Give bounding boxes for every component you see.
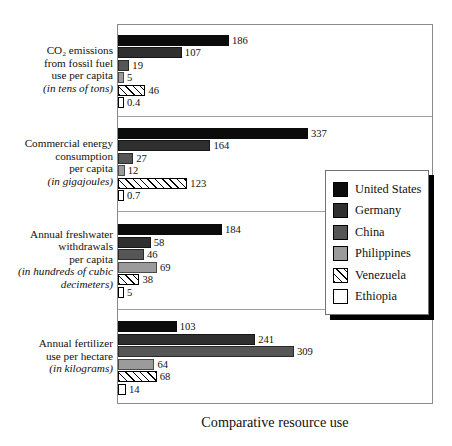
bar — [118, 72, 124, 83]
category-unit-line: decimeters) — [0, 278, 113, 291]
category-label-line: Commercial energy — [0, 137, 113, 150]
category-label-line: consumption — [0, 150, 113, 163]
bar — [118, 237, 151, 248]
bar — [118, 165, 125, 176]
category-label-line: per capita — [0, 253, 113, 266]
bar-value-label: 58 — [154, 238, 165, 249]
bar — [118, 97, 124, 108]
category-label-line: from fossil fuel — [0, 57, 113, 70]
bar — [118, 35, 229, 46]
category-label: Commercial energyconsumptionper capita(i… — [0, 137, 113, 187]
category-label-line: per capita — [0, 162, 113, 175]
legend-label: China — [355, 226, 385, 239]
category-label-line: Annual fertilizer — [0, 337, 113, 350]
bar — [118, 287, 124, 298]
category-label: Annual freshwaterwithdrawalsper capita(i… — [0, 228, 113, 291]
legend-item[interactable]: United States — [333, 179, 421, 199]
chart-root: CO₂ emissionsfrom fossil fueluse per cap… — [0, 0, 452, 446]
bar — [118, 153, 133, 164]
legend-item[interactable]: Ethiopia — [333, 287, 397, 307]
bar — [118, 85, 145, 96]
legend-label: Germany — [355, 204, 401, 217]
bar — [118, 190, 124, 201]
bar — [118, 60, 129, 71]
bar — [118, 359, 154, 370]
bar — [118, 274, 139, 285]
bar — [118, 140, 210, 151]
legend-swatch-icon — [333, 246, 348, 261]
bar — [118, 334, 255, 345]
legend-label: United States — [355, 183, 421, 196]
bar — [118, 262, 157, 273]
bar — [118, 384, 126, 395]
bar-value-label: 164 — [213, 141, 229, 152]
bar-value-label: 64 — [157, 360, 168, 371]
chart-title: Comparative resource use — [117, 414, 433, 430]
bar-value-label: 12 — [128, 166, 139, 177]
bar-value-label: 103 — [180, 322, 196, 333]
category-unit-line: (in hundreds of cubic — [0, 265, 113, 278]
legend-label: Philippines — [355, 247, 411, 260]
category-unit-line: (in tens of tons) — [0, 82, 113, 95]
legend-label: Venezuela — [355, 269, 406, 282]
bar-value-label: 38 — [142, 275, 153, 286]
category-label: CO₂ emissionsfrom fossil fueluse per cap… — [0, 44, 113, 94]
category-unit-line: (in gigajoules) — [0, 175, 113, 188]
group-separator — [118, 116, 432, 117]
legend-item[interactable]: China — [333, 222, 385, 242]
category-label-line: use per hectare — [0, 350, 113, 363]
category-label-line: withdrawals — [0, 240, 113, 253]
category-unit-line: (in kilograms) — [0, 362, 113, 375]
category-label-line: use per capita — [0, 69, 113, 82]
bar-value-label: 241 — [258, 335, 274, 346]
category-label-line: Annual freshwater — [0, 228, 113, 241]
bar-value-label: 107 — [185, 48, 201, 59]
bar-value-label: 46 — [147, 250, 158, 261]
legend-swatch-icon — [333, 268, 348, 283]
bar-value-label: 69 — [160, 263, 171, 274]
bar-value-label: 27 — [136, 154, 147, 165]
bar-value-label: 337 — [311, 129, 327, 140]
category-label: Annual fertilizeruse per hectare(in kilo… — [0, 337, 113, 375]
bar-value-label: 184 — [225, 225, 241, 236]
bar — [118, 47, 182, 58]
bar-value-label: 0.4 — [127, 98, 140, 109]
legend-swatch-icon — [333, 289, 348, 304]
bar — [118, 371, 157, 382]
bar — [118, 128, 308, 139]
category-label-line: CO₂ emissions — [0, 44, 113, 57]
bar-value-label: 309 — [297, 347, 313, 358]
bar-value-label: 68 — [160, 372, 171, 383]
bar-value-label: 123 — [190, 179, 206, 190]
bar — [118, 249, 144, 260]
bar-value-label: 5 — [127, 73, 132, 84]
legend-swatch-icon — [333, 182, 348, 197]
legend-swatch-icon — [333, 203, 348, 218]
bar — [118, 321, 177, 332]
bar-value-label: 14 — [129, 385, 140, 396]
bar — [118, 224, 222, 235]
legend-label: Ethiopia — [355, 290, 397, 303]
bar-value-label: 19 — [132, 61, 143, 72]
legend-item[interactable]: Philippines — [333, 244, 411, 264]
legend-swatch-icon — [333, 225, 348, 240]
bar-value-label: 186 — [232, 36, 248, 47]
legend-item[interactable]: Germany — [333, 201, 401, 221]
bar — [118, 178, 187, 189]
bar-value-label: 5 — [127, 288, 132, 299]
bar — [118, 346, 294, 357]
bar-value-label: 0.7 — [127, 191, 140, 202]
legend-item[interactable]: Venezuela — [333, 265, 406, 285]
legend: United StatesGermanyChinaPhilippinesVene… — [325, 170, 429, 315]
bar-value-label: 46 — [148, 86, 159, 97]
